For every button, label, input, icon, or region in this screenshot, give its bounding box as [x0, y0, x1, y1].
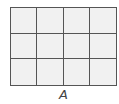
- grid-cell: [64, 59, 90, 85]
- grid-cell: [11, 34, 37, 60]
- grid-cell: [11, 8, 37, 34]
- grid-cell: [64, 34, 90, 60]
- grid-cell: [64, 8, 90, 34]
- figure-label: A: [0, 88, 119, 102]
- grid-cell: [90, 8, 116, 34]
- grid-cell: [11, 59, 37, 85]
- grid-cell: [37, 8, 63, 34]
- rectangle-grid: [10, 7, 117, 86]
- grid-cell: [90, 59, 116, 85]
- grid-cell: [37, 34, 63, 60]
- grid-cell: [37, 59, 63, 85]
- grid-cell: [90, 34, 116, 60]
